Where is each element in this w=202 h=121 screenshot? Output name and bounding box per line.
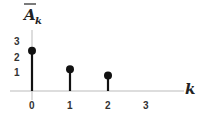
x-tick-labels: 0 1 2 3	[29, 100, 149, 111]
svg-text:2: 2	[14, 52, 20, 63]
chart-canvas: A k 3 2 1 0 1 2 3 k	[0, 0, 202, 121]
stem-marker	[104, 72, 112, 80]
y-axis-label: A k	[22, 4, 42, 26]
stem-marker	[66, 65, 74, 73]
svg-text:1: 1	[67, 100, 73, 111]
svg-text:2: 2	[105, 100, 111, 111]
svg-text:A: A	[22, 6, 36, 24]
stem-chart: A k 3 2 1 0 1 2 3 k	[0, 0, 202, 121]
svg-text:3: 3	[143, 100, 149, 111]
svg-text:1: 1	[14, 67, 20, 78]
svg-text:k: k	[35, 15, 42, 26]
svg-text:3: 3	[14, 36, 20, 47]
stem-marker	[28, 47, 36, 55]
svg-text:0: 0	[29, 100, 35, 111]
stem-series	[28, 47, 112, 91]
x-axis-label: k	[185, 80, 195, 98]
y-tick-labels: 3 2 1	[14, 36, 20, 78]
